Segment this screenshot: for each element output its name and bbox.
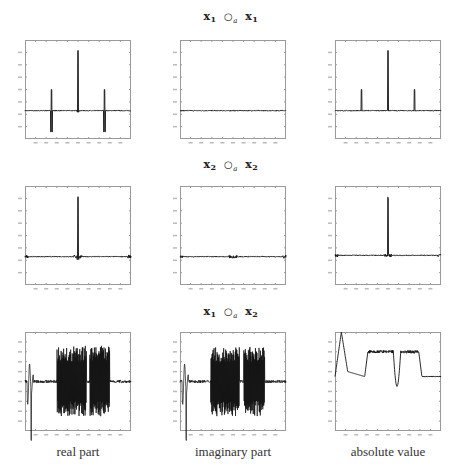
column-label-absolute: absolute value [313, 444, 462, 460]
plot-panel-r2-c3 [335, 186, 441, 285]
title-var-a: x [204, 158, 211, 171]
row-title-3: x1 ○a x2 [0, 305, 462, 320]
plot-panel-r1-c3 [335, 40, 441, 139]
title-operator: ○a [224, 306, 238, 317]
plot-panel-r3-c1 [25, 332, 131, 431]
title-operator: ○a [224, 159, 238, 170]
plot-panel-r2-c2 [180, 186, 286, 285]
title-var-a: x [204, 305, 211, 318]
column-label-real: real part [3, 444, 153, 460]
plot-panel-r3-c2 [180, 332, 286, 431]
row-title-2: x2 ○a x2 [0, 158, 462, 173]
plot-panel-r3-c3 [335, 332, 441, 431]
plot-panel-r2-c1 [25, 186, 131, 285]
title-operator: ○a [224, 11, 238, 22]
plot-panel-r1-c1 [25, 40, 131, 139]
row-title-1: x1 ○a x1 [0, 10, 462, 25]
plot-panel-r1-c2 [180, 40, 286, 139]
title-var-a: x [204, 10, 211, 23]
column-label-imaginary: imaginary part [158, 444, 308, 460]
